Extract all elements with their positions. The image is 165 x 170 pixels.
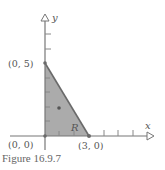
vertex-0-5 (43, 61, 47, 65)
y-axis-label: y (51, 12, 58, 23)
vertex-0-0 (43, 134, 47, 138)
figure-diagram: y x (0, 5) (0, 0) (3, 0) R (0, 0, 165, 150)
point-label-0-5: (0, 5) (8, 58, 34, 69)
y-axis-arrow-icon (41, 14, 49, 21)
centroid-dot (57, 106, 61, 110)
figure-caption: Figure 16.9.7 (2, 152, 61, 164)
y-axis-ticks (45, 34, 51, 49)
x-axis-arrow-icon (147, 132, 154, 140)
point-label-0-0: (0, 0) (8, 139, 34, 150)
point-label-3-0: (3, 0) (78, 140, 104, 150)
vertex-3-0 (87, 134, 91, 138)
x-axis-label: x (145, 120, 151, 131)
region-label: R (70, 122, 79, 133)
